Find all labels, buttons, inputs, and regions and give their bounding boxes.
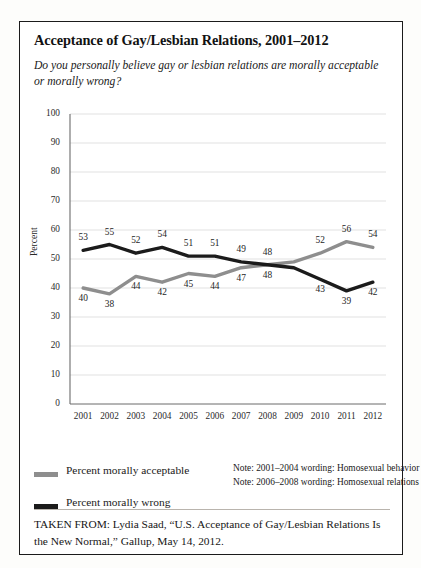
data-point-label: 48 — [257, 270, 279, 280]
y-axis-tick: 30 — [34, 311, 60, 321]
data-point-label: 44 — [125, 281, 147, 291]
figure-subtitle: Do you personally believe gay or lesbian… — [34, 58, 386, 90]
chart-canvas — [34, 108, 390, 438]
y-axis-tick: 20 — [34, 340, 60, 350]
x-axis-tick: 2012 — [358, 411, 388, 421]
figure-title: Acceptance of Gay/Lesbian Relations, 200… — [34, 32, 390, 49]
y-axis-tick: 10 — [34, 369, 60, 379]
y-axis-tick: 50 — [34, 253, 60, 263]
data-point-label: 49 — [230, 244, 252, 254]
legend-row-acceptable: Percent morally acceptable Note: 2001–20… — [34, 464, 390, 486]
y-axis-tick: 100 — [34, 108, 60, 118]
data-point-label: 48 — [257, 247, 279, 257]
data-point-label: 51 — [204, 238, 226, 248]
data-point-label: 52 — [309, 235, 331, 245]
y-axis-tick: 80 — [34, 166, 60, 176]
y-axis-tick: 60 — [34, 224, 60, 234]
data-point-label: 54 — [362, 229, 384, 239]
data-point-label: 40 — [72, 293, 94, 303]
legend-swatch-acceptable — [34, 472, 58, 477]
y-axis-tick: 90 — [34, 137, 60, 147]
data-point-label: 42 — [151, 287, 173, 297]
data-point-label: 39 — [336, 296, 358, 306]
source-attribution: TAKEN FROM: Lydia Saad, “U.S. Acceptance… — [34, 516, 390, 549]
chart-plot-area: Percent 10090807060504030201002001200220… — [34, 108, 390, 438]
data-point-label: 38 — [99, 299, 121, 309]
data-point-label: 42 — [362, 287, 384, 297]
data-point-label: 52 — [125, 235, 147, 245]
data-point-label: 44 — [204, 281, 226, 291]
data-point-label: 53 — [72, 232, 94, 242]
y-axis-tick: 40 — [34, 282, 60, 292]
legend-label-acceptable: Percent morally acceptable — [66, 464, 189, 476]
source-divider — [34, 509, 390, 510]
chart-note-1: Note: 2001–2004 wording: Homosexual beha… — [233, 463, 419, 473]
data-point-label: 54 — [151, 229, 173, 239]
data-point-label: 45 — [178, 279, 200, 289]
data-point-label: 56 — [336, 224, 358, 234]
data-point-label: 43 — [309, 284, 331, 294]
legend-row-wrong: Percent morally wrong — [34, 496, 390, 518]
figure-container: Acceptance of Gay/Lesbian Relations, 200… — [19, 21, 403, 555]
legend-label-wrong: Percent morally wrong — [66, 496, 170, 508]
page-background: Acceptance of Gay/Lesbian Relations, 200… — [0, 0, 421, 568]
y-axis-tick: 70 — [34, 195, 60, 205]
data-point-label: 47 — [230, 273, 252, 283]
data-point-label: 51 — [178, 238, 200, 248]
chart-note-2: Note: 2006–2008 wording: Homosexual rela… — [233, 477, 419, 487]
data-point-label: 55 — [99, 227, 121, 237]
y-axis-tick: 0 — [34, 398, 60, 408]
